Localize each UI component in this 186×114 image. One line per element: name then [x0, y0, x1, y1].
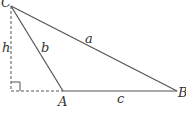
height-label: h	[2, 40, 10, 55]
side-label-a: a	[85, 31, 93, 46]
side-label-c: c	[117, 91, 125, 106]
vertex-label-b: B	[177, 85, 186, 100]
side-a	[11, 6, 177, 91]
triangle-diagram: C h b a A c B	[0, 0, 186, 114]
right-angle-marker	[11, 82, 20, 91]
vertex-label-c: C	[1, 0, 11, 10]
side-label-b: b	[41, 40, 49, 55]
vertex-label-a: A	[57, 94, 67, 109]
